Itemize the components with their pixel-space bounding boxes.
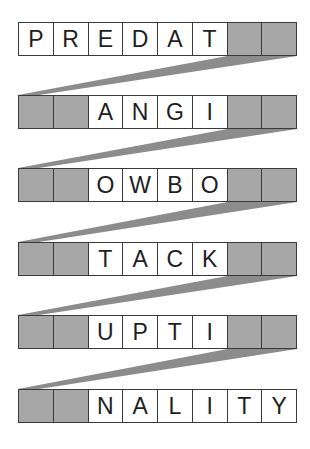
letter-cell: O bbox=[193, 169, 228, 201]
blank-cell[interactable] bbox=[228, 169, 263, 201]
blank-cell[interactable] bbox=[228, 243, 263, 275]
blank-cell[interactable] bbox=[19, 169, 54, 201]
connector-band bbox=[18, 349, 297, 389]
letter-cell: C bbox=[158, 243, 193, 275]
letter-cell: D bbox=[123, 23, 158, 55]
letter-cell: E bbox=[89, 23, 124, 55]
word-row-4: TACK bbox=[18, 242, 297, 276]
blank-cell[interactable] bbox=[228, 96, 263, 128]
blank-cell[interactable] bbox=[19, 390, 54, 422]
letter-cell: G bbox=[158, 96, 193, 128]
word-row-2: ANGI bbox=[18, 95, 297, 129]
blank-cell[interactable] bbox=[262, 316, 296, 348]
letter-cell: I bbox=[193, 316, 228, 348]
letter-cell: I bbox=[193, 390, 228, 422]
blank-cell[interactable] bbox=[54, 316, 89, 348]
word-row-1: PREDAT bbox=[18, 22, 297, 56]
blank-cell[interactable] bbox=[262, 96, 296, 128]
letter-cell: A bbox=[89, 96, 124, 128]
letter-cell: T bbox=[228, 390, 263, 422]
word-row-5: UPTI bbox=[18, 315, 297, 349]
letter-cell: N bbox=[89, 390, 124, 422]
letter-cell: W bbox=[123, 169, 158, 201]
blank-cell[interactable] bbox=[19, 96, 54, 128]
word-row-3: OWBO bbox=[18, 168, 297, 202]
blank-cell[interactable] bbox=[54, 390, 89, 422]
connector-band bbox=[18, 276, 297, 315]
word-row-6: NALITY bbox=[18, 389, 297, 423]
blank-cell[interactable] bbox=[262, 23, 296, 55]
letter-cell: T bbox=[89, 243, 124, 275]
letter-cell: N bbox=[123, 96, 158, 128]
connector-band bbox=[18, 129, 297, 168]
blank-cell[interactable] bbox=[228, 23, 263, 55]
blank-cell[interactable] bbox=[19, 243, 54, 275]
letter-cell: A bbox=[123, 243, 158, 275]
row-connectors bbox=[0, 0, 310, 449]
letter-cell: P bbox=[19, 23, 54, 55]
blank-cell[interactable] bbox=[54, 243, 89, 275]
letter-cell: Y bbox=[262, 390, 296, 422]
letter-cell: T bbox=[193, 23, 228, 55]
connector-band bbox=[18, 56, 297, 95]
connector-band bbox=[18, 202, 297, 242]
letter-cell: O bbox=[89, 169, 124, 201]
letter-cell: P bbox=[123, 316, 158, 348]
letter-cell: B bbox=[158, 169, 193, 201]
letter-cell: A bbox=[123, 390, 158, 422]
letter-cell: L bbox=[158, 390, 193, 422]
letter-cell: R bbox=[54, 23, 89, 55]
blank-cell[interactable] bbox=[228, 316, 263, 348]
letter-cell: T bbox=[158, 316, 193, 348]
letter-cell: A bbox=[158, 23, 193, 55]
letter-cell: U bbox=[89, 316, 124, 348]
blank-cell[interactable] bbox=[19, 316, 54, 348]
blank-cell[interactable] bbox=[262, 243, 296, 275]
blank-cell[interactable] bbox=[54, 169, 89, 201]
letter-cell: I bbox=[193, 96, 228, 128]
letter-cell: K bbox=[193, 243, 228, 275]
blank-cell[interactable] bbox=[54, 96, 89, 128]
blank-cell[interactable] bbox=[262, 169, 296, 201]
